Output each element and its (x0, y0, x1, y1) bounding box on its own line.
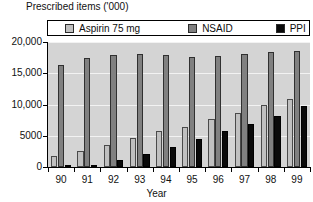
legend-label-aspirin: Aspirin 75 mg (79, 23, 140, 34)
legend-swatch-icon-aspirin (65, 24, 74, 33)
chart-title: Prescribed items ('000) (26, 1, 129, 13)
bar (235, 113, 241, 167)
bar (156, 131, 162, 167)
bar (248, 124, 254, 167)
y-tick-label: 5000 (20, 131, 42, 141)
y-tick-label: 15,000 (11, 68, 42, 78)
bar (51, 156, 57, 167)
x-tick-mark (48, 168, 49, 172)
x-tick-label: 94 (160, 174, 171, 185)
bar (58, 65, 64, 168)
y-tick-mark (43, 105, 48, 106)
bar (84, 58, 90, 167)
bar (163, 55, 169, 168)
bar (287, 99, 293, 167)
x-tick-mark (74, 168, 75, 172)
x-tick-mark (179, 168, 180, 172)
bar (294, 51, 300, 167)
y-tick-label: 20,000 (11, 37, 42, 47)
x-axis-title: Year (0, 188, 313, 199)
legend-item-aspirin: Aspirin 75 mg (65, 23, 140, 34)
x-tick-mark (153, 168, 154, 172)
x-tick-mark (100, 168, 101, 172)
x-tick-mark (205, 168, 206, 172)
y-tick-label: 0 (36, 162, 42, 172)
x-tick-label: 91 (82, 174, 93, 185)
legend-label-ppi: PPI (290, 23, 306, 34)
bar (110, 55, 116, 168)
x-tick-mark (284, 168, 285, 172)
bar (182, 127, 188, 167)
legend-swatch-icon-ppi (276, 24, 285, 33)
bar (196, 139, 202, 167)
chart-legend: Aspirin 75 mg NSAID PPI (47, 20, 310, 36)
bar (117, 160, 123, 167)
bar (222, 131, 228, 167)
bar (241, 54, 247, 167)
x-tick-label: 96 (213, 174, 224, 185)
legend-item-nsaid: NSAID (188, 23, 233, 34)
legend-item-ppi: PPI (276, 23, 306, 34)
y-tick-mark (43, 73, 48, 74)
gridline (48, 42, 310, 43)
y-tick-mark (43, 42, 48, 43)
bar (189, 57, 195, 167)
bar (208, 119, 214, 167)
bar (170, 147, 176, 167)
bar (274, 116, 280, 167)
bar (137, 54, 143, 167)
bar (104, 145, 110, 168)
bar-chart: Prescribed items ('000) Aspirin 75 mg NS… (0, 0, 313, 202)
bar (77, 151, 83, 167)
x-tick-label: 90 (56, 174, 67, 185)
x-tick-label: 99 (291, 174, 302, 185)
bar (301, 106, 307, 167)
bar (130, 138, 136, 167)
legend-label-nsaid: NSAID (202, 23, 233, 34)
x-tick-mark (258, 168, 259, 172)
x-tick-label: 98 (265, 174, 276, 185)
x-tick-label: 97 (239, 174, 250, 185)
bar (215, 56, 221, 167)
x-tick-mark (231, 168, 232, 172)
x-tick-label: 95 (187, 174, 198, 185)
x-tick-mark (127, 168, 128, 172)
legend-swatch-icon-nsaid (188, 24, 197, 33)
bar (143, 154, 149, 167)
plot-area (48, 42, 310, 167)
x-tick-mark (310, 168, 311, 172)
x-tick-label: 93 (134, 174, 145, 185)
bar (261, 105, 267, 167)
x-tick-label: 92 (108, 174, 119, 185)
bar (268, 52, 274, 167)
y-tick-mark (43, 136, 48, 137)
y-tick-label: 10,000 (11, 100, 42, 110)
